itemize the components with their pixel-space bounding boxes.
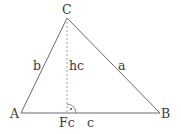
vertex-label-c: C xyxy=(62,2,72,17)
side-label-c: c xyxy=(87,115,94,130)
foot-label-fc: Fc xyxy=(59,115,75,130)
vertex-label-a: A xyxy=(9,106,20,121)
side-label-b: b xyxy=(33,58,41,73)
side-label-a: a xyxy=(118,58,126,73)
triangle-diagram: C A B b hc a Fc c xyxy=(0,0,181,134)
side-b xyxy=(21,18,67,113)
right-angle-dot xyxy=(70,108,72,110)
altitude-label-hc: hc xyxy=(69,58,84,73)
vertex-label-b: B xyxy=(161,106,170,121)
